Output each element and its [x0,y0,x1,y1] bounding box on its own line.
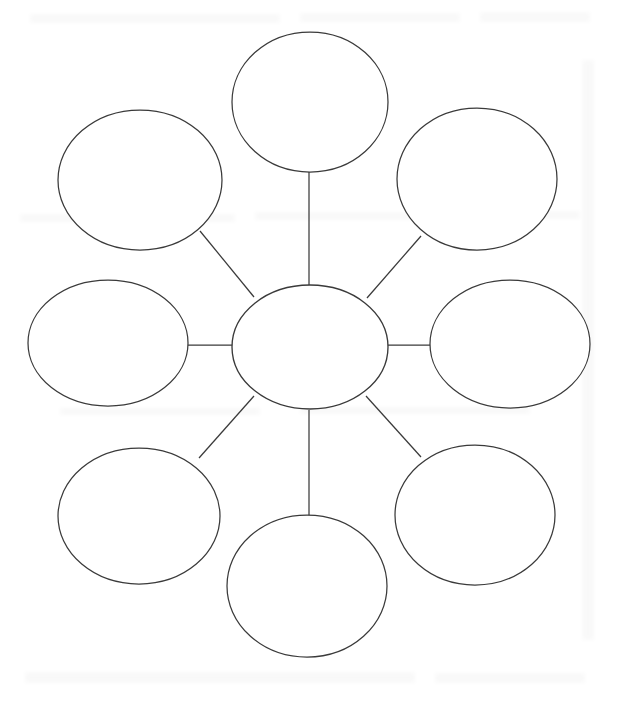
bubble-right[interactable] [430,280,590,408]
center-bubble[interactable] [232,285,388,409]
spoke-center-to-bottom-right [366,396,421,457]
bubble-top-right[interactable] [397,108,557,250]
bubble-bottom-right-shape[interactable] [395,445,555,585]
bubble-top-left-shape[interactable] [58,110,222,250]
bubble-bottom-left-shape[interactable] [58,448,220,584]
bubble-map-diagram [0,0,620,702]
bubble-top-left[interactable] [58,110,222,250]
bubble-left[interactable] [28,280,188,406]
bubble-bottom-left[interactable] [58,448,220,584]
bubble-top[interactable] [232,32,388,172]
bubble-top-shape[interactable] [232,32,388,172]
bubble-left-shape[interactable] [28,280,188,406]
bubble-bottom-right[interactable] [395,445,555,585]
spoke-center-to-top-right [367,236,421,298]
bubble-top-right-shape[interactable] [397,108,557,250]
bubble-bottom-shape[interactable] [227,515,387,657]
worksheet-page [0,0,620,702]
bubble-right-shape[interactable] [430,280,590,408]
bubble-bottom[interactable] [227,515,387,657]
spoke-center-to-top-left [200,231,254,297]
spoke-center-to-bottom-left [199,396,254,458]
center-bubble-shape[interactable] [232,285,388,409]
